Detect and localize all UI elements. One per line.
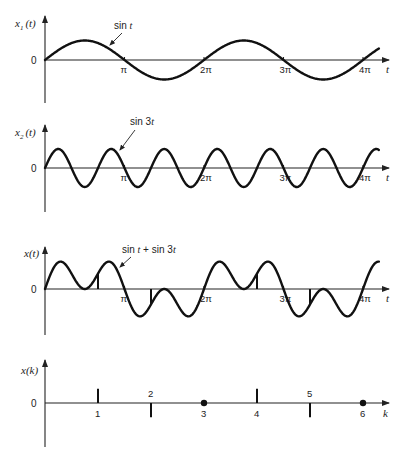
sample-dot <box>201 400 207 406</box>
annotation-arrow-3 <box>120 257 131 267</box>
k-label: 1 <box>95 408 100 419</box>
x-tick-label: π <box>121 64 128 75</box>
k-label: 3 <box>201 408 206 419</box>
ylabel-x: x(t) <box>23 247 40 260</box>
panel-x1: x1(t) 0 t sin t π2π3π4π <box>14 16 390 103</box>
x-tick-label: 2π <box>200 64 212 75</box>
annotation-arrow-1 <box>110 33 122 45</box>
sample-dot <box>360 400 366 406</box>
xlabel-t-2: t <box>386 171 390 183</box>
annotation-sum: sin t + sin 3t <box>122 244 176 255</box>
ylabel-xk: x(k) <box>20 364 38 377</box>
k-label: 2 <box>148 388 153 399</box>
xlabel-t-1: t <box>386 63 390 75</box>
ylabel-x2: x2(t) <box>14 126 36 141</box>
k-label: 6 <box>360 408 365 419</box>
annotation-sin-t: sin t <box>114 20 133 31</box>
k-label: 4 <box>254 408 259 419</box>
k-label: 5 <box>307 388 312 399</box>
ylabel-x1: x1(t) <box>14 17 36 32</box>
panel-xk: x(k) 0 k 123456 <box>20 360 389 447</box>
annotation-arrow-2 <box>120 130 135 150</box>
zero-label-x2: 0 <box>31 163 37 174</box>
sampling-figure: x1(t) 0 t sin t π2π3π4π x2(t) 0 t sin 3t… <box>0 0 407 460</box>
zero-label-xk: 0 <box>31 398 37 409</box>
xlabel-k: k <box>383 407 389 419</box>
zero-label-x1: 0 <box>31 55 37 66</box>
zero-label-x: 0 <box>31 284 37 295</box>
panel-x2: x2(t) 0 t sin 3t π2π3π4π <box>14 116 390 212</box>
xlabel-t-3: t <box>386 292 390 304</box>
x-tick-label: 4π <box>359 64 371 75</box>
annotation-sin-3t: sin 3t <box>130 116 154 127</box>
panel-x: x(t) 0 t sin t + sin 3t π2π3π4π <box>23 244 390 335</box>
